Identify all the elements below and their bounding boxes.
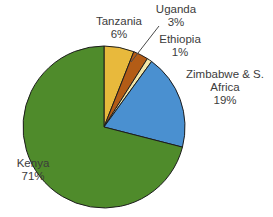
pie-label-uganda-name: Uganda <box>148 3 204 16</box>
pie-slice-group <box>23 46 185 208</box>
pie-label-ethiopia: Ethiopia 1% <box>150 33 210 59</box>
pie-label-uganda-value: 3% <box>148 16 204 29</box>
pie-label-tanzania: Tanzania 6% <box>88 15 150 41</box>
pie-label-zimbabwe-name: Zimbabwe & S. <box>178 68 272 81</box>
pie-label-zimbabwe-name2: Africa <box>178 81 272 94</box>
pie-label-tanzania-value: 6% <box>88 28 150 41</box>
pie-chart-figure: Kenya 71% Tanzania 6% Uganda 3% Ethiopia… <box>0 0 273 217</box>
pie-label-ethiopia-name: Ethiopia <box>150 33 210 46</box>
pie-label-uganda: Uganda 3% <box>148 3 204 29</box>
pie-label-zimbabwe: Zimbabwe & S. Africa 19% <box>178 68 272 107</box>
pie-label-tanzania-name: Tanzania <box>88 15 150 28</box>
pie-label-kenya-name: Kenya <box>4 157 62 170</box>
pie-label-kenya: Kenya 71% <box>4 157 62 183</box>
pie-label-zimbabwe-value: 19% <box>178 94 272 107</box>
pie-label-ethiopia-value: 1% <box>150 46 210 59</box>
pie-label-kenya-value: 71% <box>4 170 62 183</box>
